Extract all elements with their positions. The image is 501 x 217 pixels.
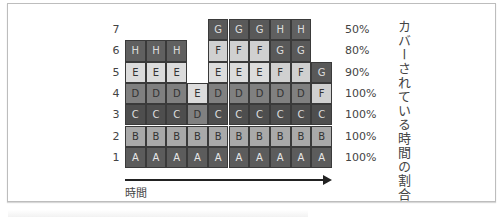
cut-off-caption	[8, 210, 308, 217]
vertical-axis-label: カバーされている時間の割合	[395, 20, 411, 202]
grid-cell: H	[146, 40, 167, 61]
grid-cell: D	[291, 83, 312, 104]
grid-cell: E	[249, 62, 270, 83]
grid-cell: B	[166, 126, 187, 147]
row-label: 2	[110, 126, 122, 147]
grid-cell: D	[208, 83, 229, 104]
coverage-percent: 100%	[345, 126, 389, 147]
grid-cell: A	[249, 147, 270, 168]
grid-cell: B	[187, 126, 208, 147]
row-label: 6	[110, 40, 122, 61]
row-label: 5	[110, 62, 122, 83]
grid-cell: A	[187, 147, 208, 168]
grid-cell: H	[125, 40, 146, 61]
grid-cell: F	[270, 62, 291, 83]
grid-cell: F	[291, 62, 312, 83]
grid-cell: A	[166, 147, 187, 168]
grid-cell: F	[208, 40, 229, 61]
row-label: 4	[110, 83, 122, 104]
coverage-percent: 90%	[345, 62, 389, 83]
grid-cell: C	[291, 104, 312, 125]
grid-cell: E	[125, 62, 146, 83]
grid-cell: G	[291, 40, 312, 61]
grid-cell: C	[270, 104, 291, 125]
grid-cell: E	[229, 62, 250, 83]
grid-cell: D	[249, 83, 270, 104]
grid-cell: A	[291, 147, 312, 168]
grid-cell: B	[229, 126, 250, 147]
grid-cell: F	[229, 40, 250, 61]
grid-cell: E	[187, 83, 208, 104]
grid-cell: B	[311, 126, 332, 147]
row-label: 1	[110, 147, 122, 168]
grid-cell: D	[166, 83, 187, 104]
grid-cell: H	[291, 19, 312, 40]
grid-cell: E	[146, 62, 167, 83]
row-label: 7	[110, 19, 122, 40]
coverage-grid: GGGHHHHHFFFGGEEEEEEFFGDDDEDDDDDFCCCDCCCC…	[125, 19, 332, 168]
grid-cell: G	[270, 40, 291, 61]
grid-cell: D	[146, 83, 167, 104]
grid-cell: A	[208, 147, 229, 168]
grid-cell: E	[208, 62, 229, 83]
coverage-percent: 50%	[345, 19, 389, 40]
grid-cell: C	[166, 104, 187, 125]
grid-cell: B	[208, 126, 229, 147]
grid-cell: C	[249, 104, 270, 125]
grid-cell: G	[249, 19, 270, 40]
grid-cell: G	[229, 19, 250, 40]
row-label: 3	[110, 104, 122, 125]
grid-cell: A	[311, 147, 332, 168]
grid-cell: B	[125, 126, 146, 147]
arrow-right-icon	[323, 175, 332, 185]
grid-cell: B	[291, 126, 312, 147]
grid-cell: D	[187, 104, 208, 125]
grid-cell: H	[270, 19, 291, 40]
coverage-percent: 100%	[345, 83, 389, 104]
grid-cell: B	[270, 126, 291, 147]
grid-cell: D	[229, 83, 250, 104]
grid-cell: A	[270, 147, 291, 168]
grid-cell: G	[311, 62, 332, 83]
grid-cell: F	[249, 40, 270, 61]
grid-cell: F	[311, 83, 332, 104]
grid-cell: A	[146, 147, 167, 168]
grid-cell: C	[311, 104, 332, 125]
time-axis-label: 時間	[125, 184, 147, 200]
grid-cell: C	[229, 104, 250, 125]
grid-cell: A	[125, 147, 146, 168]
grid-cell: C	[146, 104, 167, 125]
grid-cell: B	[249, 126, 270, 147]
grid-cell: G	[208, 19, 229, 40]
grid-cell: A	[229, 147, 250, 168]
time-arrow-line	[125, 179, 325, 181]
grid-cell: H	[166, 40, 187, 61]
grid-cell: C	[208, 104, 229, 125]
coverage-percent: 100%	[345, 104, 389, 125]
grid-cell: E	[166, 62, 187, 83]
grid-cell: B	[146, 126, 167, 147]
grid-cell: D	[125, 83, 146, 104]
coverage-percent: 100%	[345, 147, 389, 168]
coverage-percent: 80%	[345, 40, 389, 61]
grid-cell: D	[270, 83, 291, 104]
grid-cell: C	[125, 104, 146, 125]
